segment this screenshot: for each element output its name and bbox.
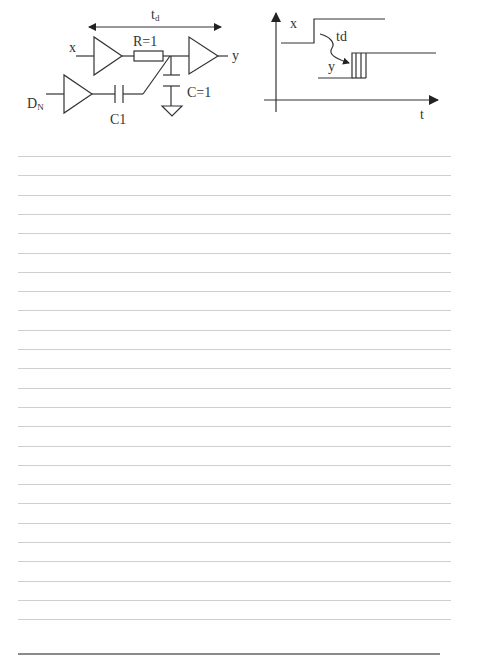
- ruled-line: [18, 195, 451, 196]
- ruled-line: [18, 561, 451, 562]
- ruled-line: [18, 619, 451, 620]
- time-axis-label: t: [420, 107, 424, 122]
- y-signal-waveform: [318, 53, 436, 78]
- ruled-line: [18, 581, 451, 582]
- timing-diagram: x td y t: [255, 0, 455, 135]
- ruled-line: [18, 349, 451, 350]
- ruled-line: [18, 484, 451, 485]
- ruled-line: [18, 214, 451, 215]
- worksheet-page: td x R=1 y C=1 DN C1 x td: [0, 0, 478, 661]
- output-y-label: y: [232, 48, 239, 63]
- y-signal-label: y: [328, 59, 335, 74]
- buffer-x-icon: [94, 37, 122, 75]
- noise-input-label: DN: [27, 96, 44, 112]
- ruled-line: [18, 310, 451, 311]
- delay-label: td: [151, 7, 160, 23]
- ruled-line: [18, 523, 451, 524]
- bottom-rule: [18, 653, 440, 655]
- ruled-line: [18, 175, 451, 176]
- buffer-y-icon: [189, 37, 218, 74]
- ruled-line: [18, 156, 451, 157]
- ruled-line: [18, 600, 451, 601]
- coupling-cap-label: C1: [110, 112, 126, 127]
- ruled-line: [18, 426, 451, 427]
- capacitor-label: C=1: [187, 85, 211, 100]
- input-x-label: x: [69, 40, 76, 55]
- rc-coupling-circuit: td x R=1 y C=1 DN C1: [0, 0, 250, 135]
- ruled-line: [18, 542, 451, 543]
- delay-label: td: [336, 29, 347, 44]
- ruled-line: [18, 253, 451, 254]
- ruled-line: [18, 330, 451, 331]
- resistor-label: R=1: [133, 34, 157, 49]
- ruled-line: [18, 446, 451, 447]
- ruled-line: [18, 503, 451, 504]
- resistor-icon: [134, 51, 163, 61]
- x-signal-label: x: [290, 16, 297, 31]
- ruled-line: [18, 291, 451, 292]
- ruled-line: [18, 407, 451, 408]
- ruled-line: [18, 233, 451, 234]
- buffer-dn-icon: [64, 75, 92, 113]
- ruled-line: [18, 272, 451, 273]
- ruled-line: [18, 388, 451, 389]
- ruled-line: [18, 368, 451, 369]
- ground-icon: [162, 106, 182, 116]
- ruled-line: [18, 465, 451, 466]
